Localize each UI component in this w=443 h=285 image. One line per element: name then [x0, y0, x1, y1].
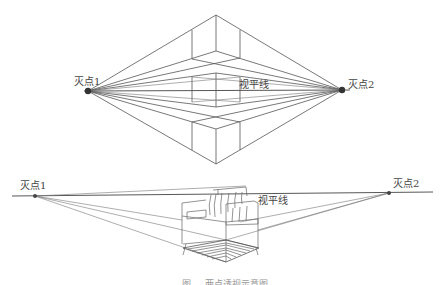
vp1-guide-mid	[35, 196, 182, 220]
top-box-back-left	[88, 58, 240, 91]
mid-box-top-right	[216, 73, 342, 90]
top-horizon-line	[84, 90, 350, 91]
top-horizon-label: 视平线	[239, 80, 269, 90]
mid-box-top-left	[88, 73, 216, 91]
top-outer-lower	[88, 90, 342, 164]
sofa-back-cushions	[209, 192, 242, 217]
bottom-vanishing-point-1	[33, 194, 37, 198]
sofa-left-arm-top	[182, 200, 206, 203]
top-vanishing-point-2	[339, 87, 345, 93]
bottom-box-back-right	[192, 90, 342, 122]
vp1-guide-bottom	[35, 196, 226, 262]
bottom-vanishing-point-2	[387, 191, 391, 195]
top-vp1-label: 灭点1	[74, 77, 100, 87]
sofa-sketch	[182, 187, 259, 262]
bottom-box-top-right	[216, 90, 342, 129]
top-two-point-perspective	[84, 15, 350, 164]
diagram-canvas	[0, 0, 443, 285]
top-vp2-label: 灭点2	[348, 80, 374, 90]
bottom-horizon-label: 视平线	[258, 196, 288, 206]
bottom-vp1-label: 灭点1	[20, 181, 46, 191]
top-vanishing-point-1	[85, 88, 91, 94]
bottom-vp2-label: 灭点2	[393, 179, 419, 189]
figure-caption: 图 … 两点透视示意图	[150, 277, 300, 285]
bottom-box-top-left	[88, 91, 216, 129]
sofa-right-arm-detail	[232, 206, 247, 222]
top-box-bottom-right	[216, 51, 342, 90]
bottom-sofa-perspective	[12, 186, 433, 262]
sofa-leg-1	[183, 244, 186, 255]
sofa-bottom-left	[183, 240, 226, 244]
